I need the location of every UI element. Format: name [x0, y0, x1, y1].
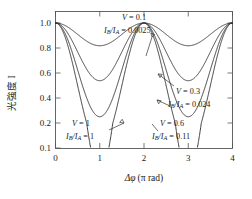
y-tick-0p1: 0.1 — [40, 143, 51, 153]
annot-v1-ratio: 1 — [90, 132, 94, 141]
figure-container: 0 1 2 3 4 1.0 0.8 0.6 0.4 0.2 0.1 Δφ(π r… — [0, 0, 252, 199]
y-axis-title: 光強度 I — [4, 54, 18, 132]
y-tick-0p4: 0.4 — [40, 93, 52, 103]
annot-v06-line2: IB/IA = 0.11 — [152, 132, 190, 141]
x-tick-4: 4 — [230, 153, 235, 163]
x-tick-labels: 0 1 2 3 4 — [53, 153, 235, 163]
annot-v03-line2: IB/IA = 0.024 — [168, 100, 210, 109]
annot-v01-ratio: 0.0025 — [128, 26, 151, 35]
annot-v06-line1: V = 0.6 — [160, 119, 184, 128]
x-tick-3: 3 — [186, 153, 191, 163]
curve-group — [56, 23, 233, 147]
x-tick-2: 2 — [142, 153, 147, 163]
x-axis-title: Δφ(π rad) — [124, 173, 163, 184]
y-tick-0p8: 0.8 — [40, 43, 52, 53]
annot-v1-line1: V = 1 — [72, 119, 90, 128]
annot-v06-value: 0.6 — [174, 119, 184, 128]
x-tick-1: 1 — [98, 153, 103, 163]
y-axis-title-text: 光強度 I — [4, 75, 18, 111]
annot-v1-line2: IB/IA = 1 — [66, 132, 94, 141]
annot-v03-ratio: 0.024 — [192, 100, 210, 109]
x-axis-delta-phi: Δφ — [124, 173, 136, 183]
y-tick-0p2: 0.2 — [40, 118, 51, 128]
y-tick-0p6: 0.6 — [40, 68, 52, 78]
annot-v01-line1: V = 0.1 — [122, 13, 146, 22]
y-tick-1p0: 1.0 — [40, 18, 52, 28]
annot-v03-line1: V = 0.3 — [176, 87, 200, 96]
annot-v01-line2: IB/IA = 0.0025 — [104, 26, 151, 35]
x-tick-0: 0 — [53, 153, 58, 163]
annot-v03-value: 0.3 — [190, 87, 200, 96]
annot-v01-value: 0.1 — [136, 13, 146, 22]
svg-text:Δφ(π rad): Δφ(π rad) — [124, 173, 163, 184]
annot-v1-value: 1 — [86, 119, 90, 128]
y-tick-labels: 1.0 0.8 0.6 0.4 0.2 0.1 — [40, 18, 52, 153]
annot-v06-ratio: 0.11 — [176, 132, 190, 141]
x-axis-unit: (π rad) — [138, 173, 164, 184]
